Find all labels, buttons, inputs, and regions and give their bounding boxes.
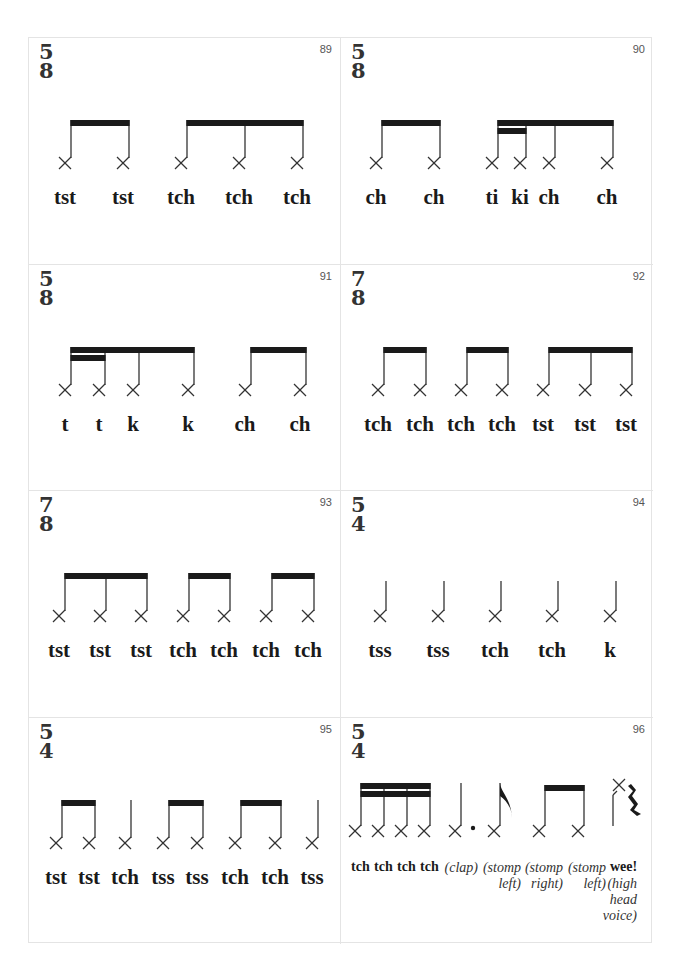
x-notehead-icon <box>191 837 203 849</box>
syllable: t <box>96 412 103 437</box>
syllable: ki <box>511 185 529 210</box>
syllable: ch <box>290 412 311 437</box>
x-notehead-icon <box>239 384 251 396</box>
beam <box>70 120 129 126</box>
x-notehead-icon <box>533 825 545 837</box>
x-notehead-icon <box>489 610 501 622</box>
x-notehead-icon <box>127 384 139 396</box>
x-notehead-icon <box>291 157 303 169</box>
action-label: (stompleft) <box>483 860 521 892</box>
x-notehead-icon <box>306 837 318 849</box>
syllable: k <box>604 638 616 663</box>
flag-icon <box>500 783 512 818</box>
rhythm-notation <box>29 265 341 492</box>
x-notehead-icon <box>117 157 129 169</box>
action-label: (stompright) <box>525 860 563 892</box>
x-notehead-icon <box>432 610 444 622</box>
beam <box>168 800 203 806</box>
x-notehead-icon <box>428 157 440 169</box>
x-notehead-icon <box>83 837 95 849</box>
syllable: tst <box>615 412 637 437</box>
syllable: tch <box>225 185 253 210</box>
syllable: tch <box>283 185 311 210</box>
x-notehead-icon <box>218 610 230 622</box>
x-notehead-icon <box>455 384 467 396</box>
x-notehead-icon <box>302 610 314 622</box>
syllable: k <box>127 412 139 437</box>
syllable: tch <box>261 865 289 890</box>
syllable: ch <box>424 185 445 210</box>
x-notehead-icon <box>135 610 147 622</box>
rhythm-card-91: 5891ttkkchch <box>29 265 341 492</box>
syllable: k <box>182 412 194 437</box>
syllable: tst <box>532 412 554 437</box>
syllable: tch <box>406 412 434 437</box>
x-notehead-icon <box>395 825 407 837</box>
syllable: tst <box>48 638 70 663</box>
x-notehead-icon <box>93 384 105 396</box>
rhythm-card-92: 7892tchtchtchtchtsttsttst <box>341 265 653 492</box>
x-notehead-icon <box>370 157 382 169</box>
syllable: tst <box>112 185 134 210</box>
rhythm-card-94: 5494tsstsstchtchk <box>341 491 653 718</box>
beam <box>271 573 314 579</box>
beam <box>383 347 426 353</box>
beam <box>466 347 508 353</box>
x-notehead-icon <box>260 610 272 622</box>
syllable: ch <box>539 185 560 210</box>
rhythm-card-93: 7893tsttsttsttchtchtchtch <box>29 491 341 718</box>
dot-icon <box>471 825 475 829</box>
syllable: tss <box>185 865 208 890</box>
x-notehead-icon <box>349 825 361 837</box>
action-label: (stompleft) <box>568 860 606 892</box>
syllable: tst <box>45 865 67 890</box>
syllable: ch <box>366 185 387 210</box>
x-notehead-icon <box>604 610 616 622</box>
rhythm-card-grid: 5889tsttsttchtchtch5890chchtikichch5891t… <box>28 37 652 943</box>
rhythm-notation <box>341 265 653 492</box>
rhythm-notation <box>29 718 341 945</box>
syllable: tch <box>447 412 475 437</box>
x-notehead-icon <box>543 157 555 169</box>
rhythm-card-96: 5496tchtchtchtch(clap)(stompleft)(stompr… <box>341 718 653 945</box>
x-notehead-icon <box>94 610 106 622</box>
x-notehead-icon <box>50 837 62 849</box>
syllable: tss <box>300 865 323 890</box>
rhythm-card-89: 5889tsttsttchtchtch <box>29 38 341 265</box>
syllable: tss <box>151 865 174 890</box>
beam <box>360 791 430 797</box>
beam <box>381 120 440 126</box>
x-notehead-icon <box>414 384 426 396</box>
syllable: tch <box>210 638 238 663</box>
beam <box>70 355 105 361</box>
syllable: tst <box>574 412 596 437</box>
beam <box>548 347 632 353</box>
syllable: tch <box>374 859 393 875</box>
rhythm-notation <box>341 38 653 265</box>
syllable: tch <box>167 185 195 210</box>
x-notehead-icon <box>119 837 131 849</box>
x-notehead-icon <box>601 157 613 169</box>
x-notehead-icon <box>537 384 549 396</box>
syllable: ch <box>597 185 618 210</box>
syllable-wee: wee! <box>610 859 637 875</box>
beam <box>240 800 281 806</box>
x-notehead-icon <box>374 610 386 622</box>
x-notehead-icon <box>157 837 169 849</box>
x-notehead-icon <box>269 837 281 849</box>
x-notehead-icon <box>59 384 71 396</box>
x-notehead-icon <box>233 157 245 169</box>
x-notehead-icon <box>514 157 526 169</box>
x-notehead-icon <box>418 825 430 837</box>
syllable: tch <box>169 638 197 663</box>
syllable: ti <box>486 185 499 210</box>
beam <box>61 800 95 806</box>
x-notehead-icon <box>496 384 508 396</box>
rhythm-notation <box>341 491 653 718</box>
syllable: tch <box>294 638 322 663</box>
voice-label: (highheadvoice) <box>603 876 637 924</box>
beam <box>360 783 430 789</box>
syllable: tch <box>420 859 439 875</box>
syllable: tst <box>78 865 100 890</box>
x-notehead-icon <box>229 837 241 849</box>
